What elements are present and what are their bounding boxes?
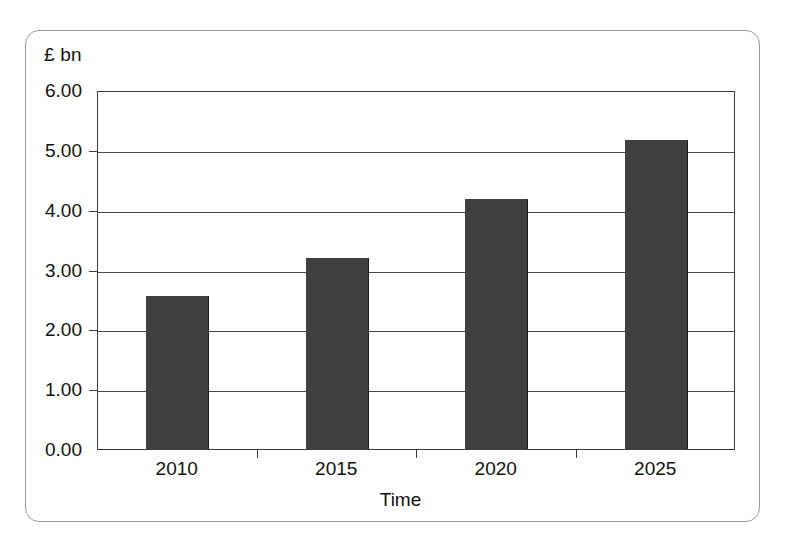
y-axis-tick-label: 2.00 — [45, 319, 82, 341]
y-axis-tick-label: 4.00 — [45, 200, 82, 222]
x-axis-title-text: Time — [380, 489, 422, 510]
x-axis-tick-label: 2015 — [315, 458, 357, 480]
x-axis-tick-mark — [257, 450, 258, 458]
plot-area — [97, 91, 735, 450]
x-axis-tick-label: 2010 — [156, 458, 198, 480]
y-axis-tick-label: 5.00 — [45, 140, 82, 162]
bar — [146, 296, 209, 449]
y-axis-tick-label: 6.00 — [45, 80, 82, 102]
y-axis-tick-label: 1.00 — [45, 379, 82, 401]
x-axis-tick-label: 2025 — [634, 458, 676, 480]
y-axis-tick-mark — [89, 390, 97, 391]
bar — [625, 140, 688, 449]
bar-series — [98, 92, 734, 449]
y-axis-tick-label: 3.00 — [45, 260, 82, 282]
x-axis-tick-mark — [576, 450, 577, 458]
y-axis-unit-label: £ bn — [44, 44, 82, 66]
y-axis-tick-mark — [89, 330, 97, 331]
chart-figure: £ bn 6.005.004.003.002.001.000.00 201020… — [0, 0, 785, 550]
x-axis-tick-label: 2020 — [475, 458, 517, 480]
x-axis-title: Time — [0, 489, 785, 511]
y-axis-tick-label: 0.00 — [45, 439, 82, 461]
x-axis-tick-mark — [416, 450, 417, 458]
y-axis-tick-mark — [89, 151, 97, 152]
y-axis-tick-mark — [89, 211, 97, 212]
bar — [306, 258, 369, 449]
bar — [465, 199, 528, 449]
y-axis-tick-mark — [89, 271, 97, 272]
